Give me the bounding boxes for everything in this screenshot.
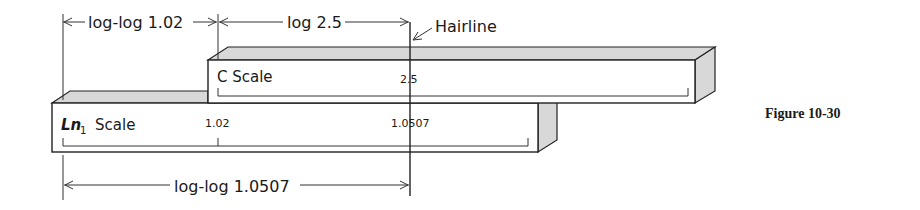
ln-scale-label-subscript: 1 [80,125,86,136]
c-scale-slide [208,47,715,103]
ln-scale-label-rest: Scale [95,116,135,134]
dim-label-log-log-1-0507: log-log 1.0507 [174,177,290,196]
ln-scale-mark-1-02: 1.02 [205,117,230,130]
c-scale-mark-2-5: 2.5 [400,73,418,86]
c-slide-front-face [208,60,695,103]
hairline-label: Hairline [435,17,497,36]
slide-rule-diagram: log-log 1.02 log 2.5 Hairline log-log 1.… [0,0,920,210]
figure-caption: Figure 10-30 [765,106,841,121]
ln-body-top-face [52,91,208,103]
dim-label-log-2-5: log 2.5 [287,13,342,32]
dim-label-log-log-1-02: log-log 1.02 [88,13,183,32]
ln-scale-label-italic: Ln [61,116,81,134]
c-slide-top-face [208,47,715,60]
ln-scale-mark-1-0507: 1.0507 [391,117,430,130]
c-scale-label: C Scale [217,68,273,86]
hairline-pointer [413,28,432,40]
